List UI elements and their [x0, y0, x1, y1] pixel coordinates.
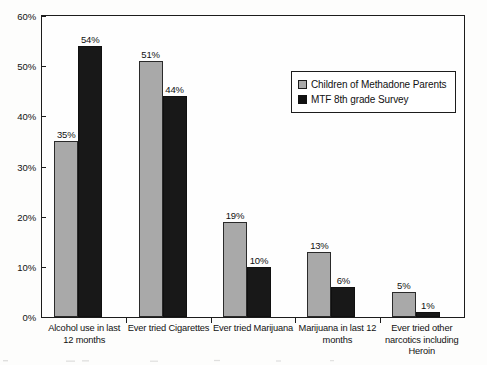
scan-artifact [0, 355, 487, 365]
bar-value-label: 51% [141, 49, 159, 60]
legend-label-series-b: MTF 8th grade Survey [311, 94, 408, 105]
category-label-line: 12 months [36, 335, 132, 347]
bar-value-label: 35% [57, 129, 75, 140]
bar: 19% [223, 222, 247, 317]
category-label: Ever tried othernarcotics includingHeroi… [374, 323, 470, 358]
bar-value-label: 6% [337, 275, 350, 286]
bar-value-label: 54% [81, 34, 99, 45]
bar: 5% [392, 292, 416, 317]
y-axis-tick-label: 10% [17, 261, 36, 272]
plot-area: 35%54%51%44%19%10%13%6%5%1% [42, 16, 464, 317]
bar-group: 5%1% [380, 16, 464, 317]
y-axis-tick-label: 50% [17, 61, 36, 72]
bar-group: 51%44% [126, 16, 210, 317]
bar-value-label: 5% [397, 280, 410, 291]
category-label-line: Alcohol use in last [36, 323, 132, 335]
category-label-line: months [289, 335, 385, 347]
category-label-line: Ever tried other [374, 323, 470, 335]
bar: 51% [139, 61, 163, 317]
legend-entry: Children of Methadone Parents [298, 77, 447, 92]
bar-group: 35%54% [42, 16, 126, 317]
y-axis-tick-label: 20% [17, 211, 36, 222]
bar: 13% [307, 252, 331, 317]
bar-group: 13%6% [295, 16, 379, 317]
legend-swatch-series-b [298, 95, 307, 104]
bar-value-label: 1% [421, 300, 434, 311]
legend-label-series-a: Children of Methadone Parents [311, 79, 447, 90]
bar: 10% [247, 267, 271, 317]
y-axis-tick-label: 0% [22, 312, 36, 323]
bar: 1% [416, 312, 440, 317]
bar: 6% [331, 287, 355, 317]
category-label-line: Ever tried Marijuana [205, 323, 301, 335]
bar: 35% [54, 141, 78, 317]
bar: 54% [78, 46, 102, 317]
category-label: Ever tried Cigarettes [120, 323, 216, 335]
category-label-line: Marijuana in last 12 [289, 323, 385, 335]
bar-value-label: 10% [250, 255, 268, 266]
y-axis-tick-label: 30% [17, 161, 36, 172]
y-axis-tick-label: 40% [17, 111, 36, 122]
category-label: Ever tried Marijuana [205, 323, 301, 335]
bar-group: 19%10% [211, 16, 295, 317]
chart-legend: Children of Methadone Parents MTF 8th gr… [291, 71, 456, 113]
category-label-line: narcotics including [374, 335, 470, 347]
legend-swatch-series-a [298, 80, 307, 89]
bar-value-label: 19% [226, 210, 244, 221]
category-label-line: Ever tried Cigarettes [120, 323, 216, 335]
bar-value-label: 44% [165, 84, 183, 95]
legend-entry: MTF 8th grade Survey [298, 92, 447, 107]
y-axis-tick-label: 60% [17, 11, 36, 22]
chart-page: 0%10%20%30%40%50%60% 35%54%51%44%19%10%1… [0, 0, 487, 365]
bar-value-label: 13% [310, 240, 328, 251]
category-label: Alcohol use in last12 months [36, 323, 132, 346]
bar: 44% [163, 96, 187, 317]
category-label: Marijuana in last 12months [289, 323, 385, 346]
